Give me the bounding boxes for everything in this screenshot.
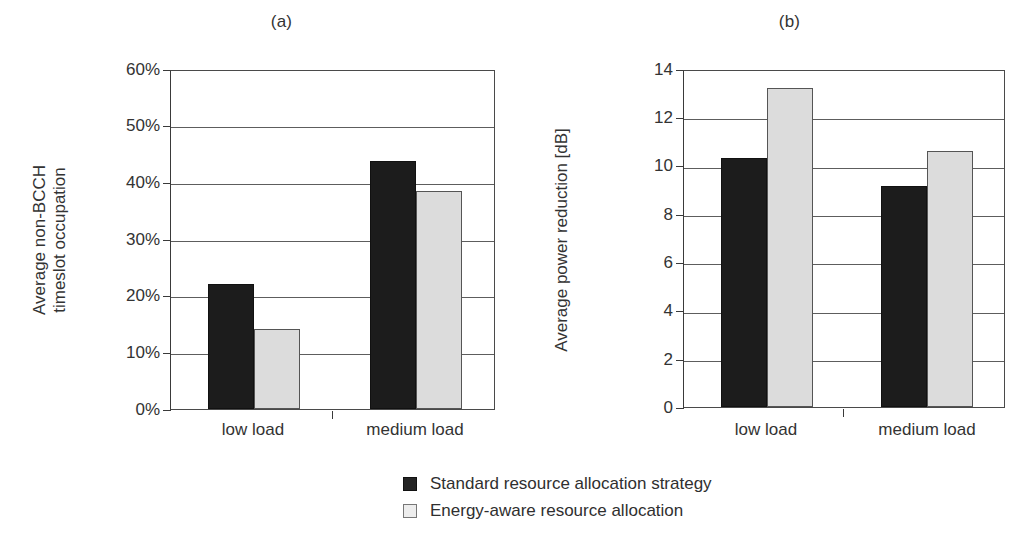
panel-b-ytick-label-4: 4 [633, 301, 673, 321]
panel-a-y-axis-title: Average non-BCCH timeslot occupation [30, 70, 70, 410]
panel-a-gridline-40 [171, 184, 494, 185]
panel-b-gridline-12 [684, 119, 1004, 120]
panel-a-ytick-label-50: 50% [98, 116, 160, 136]
panel-a-bar-mediumload-standard [370, 161, 416, 409]
panel-b-ytick-label-2: 2 [633, 350, 673, 370]
legend-label-energy-aware: Energy-aware resource allocation [430, 501, 683, 521]
panel-b-bar-lowload-energyaware [767, 88, 813, 407]
panel-b-bar-lowload-standard [721, 158, 767, 407]
panel-b-category-separator [843, 409, 844, 417]
panel-a-caption: (a) [0, 12, 513, 32]
panel-b-ytick-label-0: 0 [633, 398, 673, 418]
legend-filled-square-icon [403, 477, 417, 491]
panel-a-ytick-label-0: 0% [98, 400, 160, 420]
panel-a-ytick-label-10: 10% [98, 343, 160, 363]
panel-b-ytick-label-8: 8 [633, 205, 673, 225]
panel-a-ytick-mark-0 [163, 410, 171, 411]
panel-b-xtick-label-low-load: low load [735, 420, 797, 440]
panel-b-ytick-label-12: 12 [633, 108, 673, 128]
panel-b-ytick-mark-0 [676, 408, 684, 409]
panel-b-bar-mediumload-energyaware [927, 151, 973, 407]
legend-hollow-square-icon [403, 504, 417, 518]
panel-a-category-separator [332, 411, 333, 419]
panel-b-plot-area [683, 70, 1005, 408]
panel-a-xtick-label-medium-load: medium load [366, 420, 463, 440]
legend-item-standard: Standard resource allocation strategy [303, 470, 723, 497]
panel-a-plot-area [170, 70, 495, 410]
panel-a-bar-lowload-energyaware [254, 329, 300, 409]
panel-b-ytick-label-6: 6 [633, 253, 673, 273]
panel-a-xtick-label-low-load: low load [222, 420, 284, 440]
panel-b-y-axis-title: Average power reduction [dB] [552, 70, 572, 410]
panel-a-y-axis-title-line2: timeslot occupation [50, 70, 70, 410]
panel-a-bar-mediumload-energyaware [416, 191, 462, 409]
panel-a-ytick-label-20: 20% [98, 286, 160, 306]
panel-a-ytick-label-30: 30% [98, 230, 160, 250]
panel-a-y-axis-title-line1: Average non-BCCH [30, 70, 50, 410]
legend-item-energy-aware: Energy-aware resource allocation [303, 497, 723, 524]
figure-root: (a) Average non-BCCH timeslot occupation… [0, 0, 1026, 549]
panel-a-ytick-label-40: 40% [98, 173, 160, 193]
panel-a-gridline-50 [171, 127, 494, 128]
legend-label-standard: Standard resource allocation strategy [430, 474, 712, 494]
panel-a-ytick-label-60: 60% [98, 60, 160, 80]
chart-legend: Standard resource allocation strategy En… [0, 470, 1026, 524]
panel-b-bar-mediumload-standard [881, 186, 927, 407]
chart-panel-a: (a) Average non-BCCH timeslot occupation… [0, 0, 513, 460]
panel-b-ytick-label-14: 14 [633, 60, 673, 80]
panel-b-xtick-label-medium-load: medium load [878, 420, 975, 440]
panel-a-bar-lowload-standard [208, 284, 254, 409]
panel-b-caption: (b) [513, 12, 1026, 32]
panel-b-ytick-label-10: 10 [633, 156, 673, 176]
